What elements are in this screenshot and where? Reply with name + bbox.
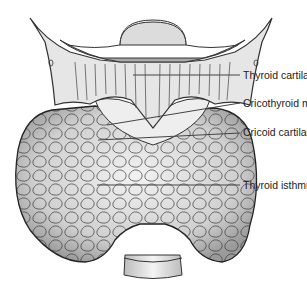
- label-cricoid-cartilage: Cricoid cartilage: [243, 126, 307, 138]
- label-cricothyroid-membrane: Cricothyroid membrane: [243, 97, 307, 109]
- larynx-thyroid-illustration: [0, 0, 307, 281]
- label-thyroid-cartilage: Thyroid cartilage: [243, 69, 307, 81]
- thyroid-diagram: Thyroid cartilage Cricothyroid membrane …: [0, 0, 307, 281]
- label-thyroid-isthmus: Thyroid isthmus: [243, 179, 307, 191]
